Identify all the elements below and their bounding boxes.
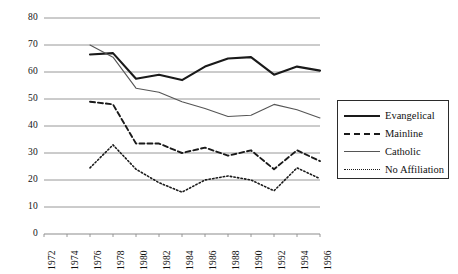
grid-lines [44,18,320,234]
y-axis-label-20: 20 [12,175,38,185]
series-line-mainline [90,102,320,170]
x-axis-label-1978: 1978 [117,250,127,270]
y-axis-label-60: 60 [12,67,38,77]
chart-container: 01020304050607080 1972197419761978198019… [0,0,458,274]
y-axis-label-80: 80 [12,13,38,23]
series-line-evangelical [90,53,320,80]
x-axis-label-1980: 1980 [140,250,150,270]
y-axis-label-0: 0 [12,229,38,239]
legend-label-no-affiliation: No Affiliation [385,164,444,175]
x-axis-label-1996: 1996 [324,250,334,270]
legend-item-catholic[interactable]: Catholic [338,142,448,160]
series-line-catholic [90,45,320,118]
x-axis-label-1974: 1974 [71,250,81,270]
x-axis-label-1976: 1976 [94,250,104,270]
x-axis-label-1984: 1984 [186,250,196,270]
y-axis-label-40: 40 [12,121,38,131]
x-axis-label-1982: 1982 [163,250,173,270]
y-axis-label-10: 10 [12,202,38,212]
series-line-no-affiliation [90,145,320,192]
x-axis-label-1990: 1990 [255,250,265,270]
x-axis-label-1972: 1972 [48,250,58,270]
legend-swatch-no-affiliation-icon [344,164,380,174]
legend-swatch-mainline-icon [344,128,380,138]
x-axis-label-1994: 1994 [301,250,311,270]
y-axis-label-30: 30 [12,148,38,158]
y-axis-label-70: 70 [12,40,38,50]
x-axis-label-1988: 1988 [232,250,242,270]
chart-legend: EvangelicalMainlineCatholicNo Affiliatio… [337,100,449,179]
legend-swatch-catholic-icon [344,146,380,156]
legend-item-mainline[interactable]: Mainline [338,124,448,142]
legend-label-catholic: Catholic [385,146,421,157]
x-axis-label-1992: 1992 [278,250,288,270]
legend-label-mainline: Mainline [385,128,423,139]
y-axis-label-50: 50 [12,94,38,104]
legend-item-evangelical[interactable]: Evangelical [338,106,448,124]
legend-label-evangelical: Evangelical [385,110,435,121]
x-axis-label-1986: 1986 [209,250,219,270]
legend-item-no-affiliation[interactable]: No Affiliation [338,160,448,178]
legend-swatch-evangelical-icon [344,110,380,120]
